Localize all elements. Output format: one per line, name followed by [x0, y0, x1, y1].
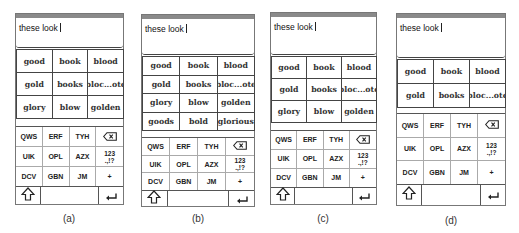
- suggestion-book[interactable]: book: [52, 49, 89, 73]
- backspace-key[interactable]: [96, 127, 123, 147]
- key-opl[interactable]: OPL: [297, 150, 323, 169]
- suggestion-gold[interactable]: gold: [271, 78, 307, 101]
- shift-key[interactable]: [142, 191, 168, 206]
- key-uik[interactable]: UIK: [397, 138, 424, 162]
- key-qws[interactable]: QWS: [397, 114, 424, 138]
- shift-key[interactable]: [271, 188, 295, 204]
- suggestion-blow[interactable]: blow: [179, 93, 217, 113]
- key-qws[interactable]: QWS: [271, 131, 297, 150]
- key-uik[interactable]: UIK: [16, 147, 43, 167]
- suggestion-blood[interactable]: blood: [217, 56, 255, 76]
- suggestion-books[interactable]: books: [179, 75, 217, 95]
- enter-key[interactable]: [353, 188, 376, 204]
- enter-key[interactable]: [99, 187, 123, 204]
- text-input-field[interactable]: these look: [271, 17, 376, 55]
- key-erf[interactable]: ERF: [297, 131, 323, 150]
- key-jm[interactable]: JM: [70, 167, 97, 187]
- suggestion-good[interactable]: good: [271, 56, 307, 79]
- suggestion-golden[interactable]: golden: [87, 95, 124, 119]
- suggestion-gold[interactable]: gold: [397, 83, 434, 108]
- suggestion-book[interactable]: book: [433, 59, 470, 84]
- symbols-key[interactable]: 123.,!?: [478, 138, 505, 162]
- key-uik[interactable]: UIK: [142, 156, 170, 174]
- key-jm[interactable]: JM: [451, 161, 478, 185]
- backspace-key[interactable]: [350, 131, 376, 150]
- symbols-key[interactable]: 123.,!?: [350, 150, 376, 169]
- key-dcv[interactable]: DCV: [397, 161, 424, 185]
- key-dcv[interactable]: DCV: [142, 173, 170, 191]
- suggestion-good[interactable]: good: [397, 59, 434, 84]
- suggestion-glory[interactable]: glory: [16, 95, 53, 119]
- key-azx[interactable]: AZX: [324, 150, 350, 169]
- key-qws[interactable]: QWS: [16, 127, 43, 147]
- key-opl[interactable]: OPL: [170, 156, 198, 174]
- symbols-key[interactable]: 123.,!?: [96, 147, 123, 167]
- key-gbn[interactable]: GBN: [424, 161, 451, 185]
- space-key[interactable]: [168, 191, 230, 206]
- suggestion-book[interactable]: book: [179, 56, 217, 76]
- symbols-key[interactable]: 123.,!?: [226, 156, 254, 174]
- key-azx[interactable]: AZX: [70, 147, 97, 167]
- text-input-field[interactable]: these look: [16, 18, 123, 48]
- suggestion-books[interactable]: books: [52, 72, 89, 96]
- shift-key[interactable]: [16, 187, 41, 204]
- key-tyh[interactable]: TYH: [451, 114, 478, 138]
- suggestion-blocote[interactable]: bloc...ote: [341, 78, 377, 101]
- key-gbn[interactable]: GBN: [43, 167, 70, 187]
- key-tyh[interactable]: TYH: [324, 131, 350, 150]
- key-gbn[interactable]: GBN: [170, 173, 198, 191]
- key-dcv[interactable]: DCV: [16, 167, 43, 187]
- suggestion-goods[interactable]: goods: [142, 112, 180, 132]
- space-key[interactable]: [295, 188, 353, 204]
- key-plus[interactable]: +: [478, 161, 505, 185]
- key-uik[interactable]: UIK: [271, 150, 297, 169]
- suggestion-gold[interactable]: gold: [142, 75, 180, 95]
- suggestion-blood[interactable]: blood: [469, 59, 506, 84]
- suggestion-books[interactable]: books: [433, 83, 470, 108]
- key-erf[interactable]: ERF: [170, 138, 198, 156]
- key-jm[interactable]: JM: [198, 173, 226, 191]
- key-dcv[interactable]: DCV: [271, 169, 297, 188]
- key-qws[interactable]: QWS: [142, 138, 170, 156]
- suggestion-glorious[interactable]: glorious: [217, 112, 255, 132]
- suggestion-books[interactable]: books: [306, 78, 342, 101]
- suggestion-golden[interactable]: golden: [341, 100, 377, 123]
- key-azx[interactable]: AZX: [198, 156, 226, 174]
- suggestion-glory[interactable]: glory: [271, 100, 307, 123]
- key-erf[interactable]: ERF: [43, 127, 70, 147]
- enter-key[interactable]: [481, 185, 505, 205]
- suggestion-blocote[interactable]: bloc...ote: [217, 75, 255, 95]
- suggestion-glory[interactable]: glory: [142, 93, 180, 113]
- suggestion-book[interactable]: book: [306, 56, 342, 79]
- shift-key[interactable]: [397, 185, 422, 205]
- backspace-key[interactable]: [478, 114, 505, 138]
- suggestion-blood[interactable]: blood: [87, 49, 124, 73]
- suggestion-blocote[interactable]: bloc...ote: [469, 83, 506, 108]
- key-jm[interactable]: JM: [324, 169, 350, 188]
- key-plus[interactable]: +: [350, 169, 376, 188]
- suggestion-gold[interactable]: gold: [16, 72, 53, 96]
- suggestion-blow[interactable]: blow: [52, 95, 89, 119]
- key-erf[interactable]: ERF: [424, 114, 451, 138]
- enter-key[interactable]: [229, 191, 254, 206]
- key-tyh[interactable]: TYH: [198, 138, 226, 156]
- text-input-field[interactable]: these look: [397, 18, 505, 58]
- space-key[interactable]: [41, 187, 100, 204]
- key-plus[interactable]: +: [96, 167, 123, 187]
- text-input-field[interactable]: these look: [142, 19, 254, 55]
- key-tyh[interactable]: TYH: [70, 127, 97, 147]
- suggestion-blow[interactable]: blow: [306, 100, 342, 123]
- key-opl[interactable]: OPL: [424, 138, 451, 162]
- suggestion-good[interactable]: good: [142, 56, 180, 76]
- key-gbn[interactable]: GBN: [297, 169, 323, 188]
- suggestion-golden[interactable]: golden: [217, 93, 255, 113]
- suggestion-blood[interactable]: blood: [341, 56, 377, 79]
- suggestion-blocote[interactable]: bloc...ote: [87, 72, 124, 96]
- backspace-key[interactable]: [226, 138, 254, 156]
- space-key[interactable]: [422, 185, 482, 205]
- key-azx[interactable]: AZX: [451, 138, 478, 162]
- suggestion-bold[interactable]: bold: [179, 112, 217, 132]
- key-opl[interactable]: OPL: [43, 147, 70, 167]
- key-plus[interactable]: +: [226, 173, 254, 191]
- suggestion-good[interactable]: good: [16, 49, 53, 73]
